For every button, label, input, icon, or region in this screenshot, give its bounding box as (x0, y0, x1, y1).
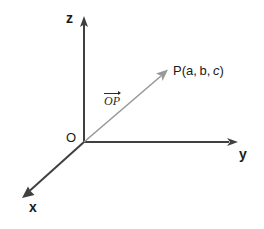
point-p-coord-b: b, (199, 63, 210, 78)
point-p-label: P(a, b, c) (173, 64, 224, 77)
coordinate-axes-figure: O z y x OP P(a, b, c) (0, 0, 264, 229)
x-axis-label: x (29, 200, 37, 214)
y-axis-label: y (239, 147, 247, 161)
axes-drawing (0, 0, 264, 229)
op-vector-label-text: OP (104, 93, 120, 107)
caption-remnant (0, 219, 264, 229)
origin-label: O (66, 131, 76, 144)
z-axis-label: z (66, 11, 73, 25)
x-axis-line (30, 142, 84, 191)
op-vector (84, 70, 168, 143)
x-axis (22, 142, 84, 198)
op-vector-line (84, 76, 161, 142)
y-axis (84, 138, 238, 146)
z-axis (80, 16, 88, 142)
op-vector-label: OP (104, 93, 120, 107)
point-p-coord-a: a, (186, 63, 197, 78)
point-p-name: P (173, 63, 182, 78)
point-p-close-paren: ) (219, 63, 223, 78)
